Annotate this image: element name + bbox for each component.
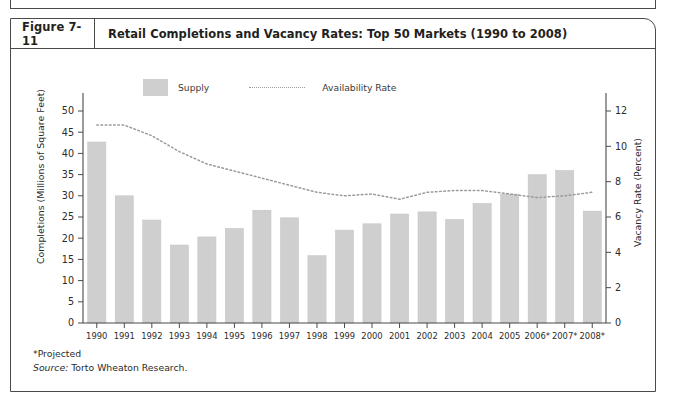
bar-1991 bbox=[115, 196, 133, 323]
preceding-box-edge bbox=[10, 0, 656, 9]
figure-frame: Figure 7-11 Retail Completions and Vacan… bbox=[10, 18, 656, 392]
x-tick-2002: 2002 bbox=[416, 331, 437, 341]
bar-1996 bbox=[253, 210, 271, 323]
chart-svg: 0510152025303540455002468101219901991199… bbox=[11, 19, 657, 349]
bar-2005 bbox=[501, 194, 519, 323]
x-tick-2005: 2005 bbox=[499, 331, 520, 341]
y-tick-right-0: 0 bbox=[615, 317, 621, 328]
y-axis-left-title: Completions (Millions of Square Feet) bbox=[35, 72, 46, 282]
bar-1997 bbox=[280, 218, 298, 323]
x-tick-1991: 1991 bbox=[114, 331, 135, 341]
x-tick-2007*: 2007* bbox=[552, 331, 578, 341]
bar-1995 bbox=[225, 228, 243, 323]
x-tick-1995: 1995 bbox=[224, 331, 245, 341]
x-tick-1993: 1993 bbox=[169, 331, 190, 341]
y-tick-left-40: 40 bbox=[62, 148, 74, 159]
bar-2003 bbox=[446, 220, 464, 324]
bar-2004 bbox=[473, 203, 491, 323]
y-tick-left-20: 20 bbox=[62, 233, 74, 244]
bar-1999 bbox=[335, 230, 353, 323]
y-tick-left-30: 30 bbox=[62, 190, 74, 201]
bar-2000 bbox=[363, 224, 381, 323]
bar-2008* bbox=[583, 211, 601, 323]
x-tick-1994: 1994 bbox=[196, 331, 217, 341]
x-tick-1998: 1998 bbox=[306, 331, 327, 341]
x-tick-2003: 2003 bbox=[444, 331, 465, 341]
note-source: Source: Torto Wheaton Research. bbox=[33, 361, 187, 375]
y-tick-left-50: 50 bbox=[62, 105, 74, 116]
source-prefix: Source: bbox=[33, 362, 68, 373]
y-tick-left-45: 45 bbox=[62, 127, 74, 138]
availability-rate-line bbox=[97, 125, 592, 199]
bar-1998 bbox=[308, 256, 326, 323]
source-value: Torto Wheaton Research. bbox=[71, 362, 187, 373]
y-tick-left-25: 25 bbox=[62, 211, 74, 222]
y-tick-right-8: 8 bbox=[615, 176, 621, 187]
note-projected: *Projected bbox=[33, 347, 187, 361]
plot-area: 0510152025303540455002468101219901991199… bbox=[11, 19, 657, 393]
x-tick-2006*: 2006* bbox=[524, 331, 550, 341]
x-tick-1996: 1996 bbox=[251, 331, 272, 341]
y-tick-left-5: 5 bbox=[68, 296, 74, 307]
bar-1990 bbox=[88, 142, 106, 323]
bar-1993 bbox=[170, 245, 188, 323]
bar-2007* bbox=[556, 170, 574, 323]
x-tick-2008*: 2008* bbox=[579, 331, 605, 341]
y-tick-left-0: 0 bbox=[68, 317, 74, 328]
x-tick-2004: 2004 bbox=[471, 331, 492, 341]
x-tick-2000: 2000 bbox=[361, 331, 382, 341]
figure-notes: *Projected Source: Torto Wheaton Researc… bbox=[33, 347, 187, 375]
bar-2002 bbox=[418, 212, 436, 323]
y-tick-right-4: 4 bbox=[615, 247, 621, 258]
y-tick-left-35: 35 bbox=[62, 169, 74, 180]
x-tick-1997: 1997 bbox=[279, 331, 300, 341]
figure-page: Figure 7-11 Retail Completions and Vacan… bbox=[0, 0, 678, 405]
y-tick-left-10: 10 bbox=[62, 275, 74, 286]
bar-1994 bbox=[198, 237, 216, 323]
y-tick-right-2: 2 bbox=[615, 282, 621, 293]
y-tick-right-10: 10 bbox=[615, 141, 627, 152]
y-tick-right-12: 12 bbox=[615, 105, 627, 116]
x-tick-2001: 2001 bbox=[389, 331, 410, 341]
bar-2001 bbox=[391, 214, 409, 323]
x-tick-1999: 1999 bbox=[334, 331, 355, 341]
x-tick-1990: 1990 bbox=[86, 331, 107, 341]
y-tick-left-15: 15 bbox=[62, 254, 74, 265]
y-axis-right-title: Vacancy Rate (Percent) bbox=[632, 103, 643, 283]
y-tick-right-6: 6 bbox=[615, 211, 621, 222]
bar-1992 bbox=[143, 220, 161, 323]
x-tick-1992: 1992 bbox=[141, 331, 162, 341]
